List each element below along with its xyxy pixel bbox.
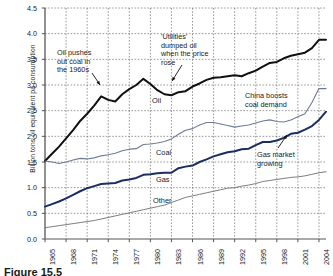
y-tick-label: 4.0 [15,29,37,38]
x-tick-label: 1983 [174,249,183,265]
y-tick-label: 0.5 [15,209,37,218]
x-tick-label: 2004 [322,249,331,265]
y-tick-label: 4.5 [15,4,37,13]
annotation-line: growing [257,160,295,169]
annotation-line: coal demand [245,101,288,110]
x-tick-label: 1971 [90,249,99,265]
y-tick-label: 1.0 [15,183,37,192]
annotation-line: rose [161,59,208,68]
arrow-oil-pushes-out-coal [92,73,100,85]
annotation-utilities-dumped-oil: 'Utilities'dumped oilwhen the pricerose [161,33,208,67]
figure-caption: Figure 15.5 [4,266,62,276]
y-tick-label: 2.0 [15,132,37,141]
arrow-gas-market-growing [278,135,287,148]
x-tick-label: 1980 [153,249,162,265]
annotation-line: the 1960s [57,66,91,75]
figure-container: Billion tons oil equivalent pa consumpti… [0,0,333,276]
x-tick-label: 1986 [196,249,205,265]
y-tick-label: 3.0 [15,81,37,90]
y-tick-label: 2.5 [15,106,37,115]
x-tick-label: 1992 [238,249,247,265]
x-tick-label: 1998 [280,249,289,265]
x-tick-label: 1977 [132,249,141,265]
x-tick-label: 1995 [259,249,268,265]
x-tick-label: 1989 [217,249,226,265]
annotation-oil-pushes-out-coal: Oil pushesout coal inthe 1960s [57,49,91,75]
y-tick-label: 1.5 [15,158,37,167]
series-label-oil: Oil [152,96,161,105]
x-tick-label: 2001 [301,249,310,265]
x-tick-label: 1968 [69,249,78,265]
series-label-other: Other [153,196,171,205]
x-tick-label: 1965 [48,249,57,265]
y-tick-label: 0.0 [15,235,37,244]
arrow-utilities-dumped-oil [172,65,182,81]
annotation-china-boosts-coal-demand: China boostscoal demand [245,92,288,109]
series-label-gas: Gas [156,175,170,184]
x-tick-label: 1974 [111,249,120,265]
y-tick-label: 3.5 [15,55,37,64]
annotation-gas-market-growing: Gas marketgrowing [257,151,295,168]
series-label-coal: Coal [156,148,171,157]
